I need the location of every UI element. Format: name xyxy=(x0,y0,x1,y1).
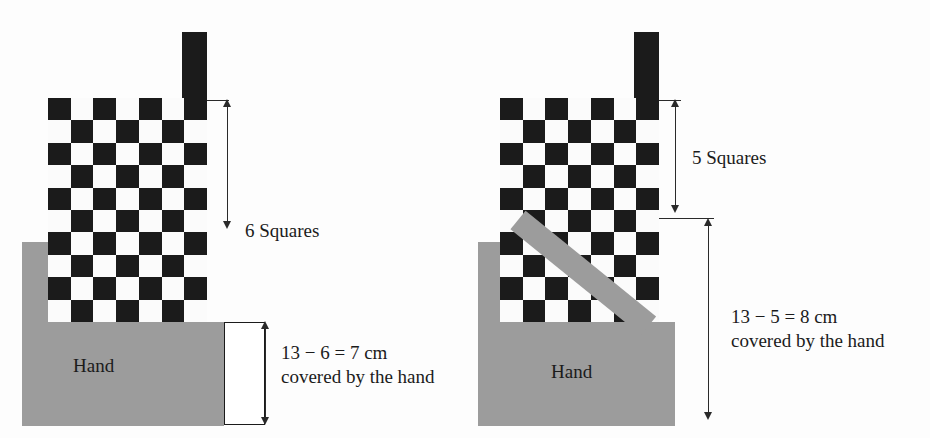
ruler-black-bar xyxy=(182,32,207,102)
board-cell xyxy=(116,232,139,254)
covered-caption-line2: covered by the hand xyxy=(281,365,435,389)
checkerboard xyxy=(48,98,207,322)
board-cell xyxy=(545,165,568,187)
board-cell xyxy=(48,98,71,120)
board-cell xyxy=(139,277,162,299)
board-cell xyxy=(162,188,185,210)
board-cell xyxy=(614,143,637,165)
board-cell xyxy=(568,98,591,120)
hand-body xyxy=(22,322,224,426)
board-cell xyxy=(162,120,185,142)
board-cell xyxy=(184,120,207,142)
board-cell xyxy=(614,165,637,187)
hand-label: Hand xyxy=(73,354,114,378)
board-cell xyxy=(48,143,71,165)
board-cell xyxy=(184,277,207,299)
board-cell xyxy=(139,98,162,120)
board-cell xyxy=(116,188,139,210)
board-cell xyxy=(636,232,659,254)
board-cell xyxy=(591,188,614,210)
board-cell xyxy=(162,255,185,277)
board-cell xyxy=(48,255,71,277)
board-cell xyxy=(48,188,71,210)
board-cell xyxy=(523,255,546,277)
board-cell xyxy=(71,188,94,210)
board-cell xyxy=(139,188,162,210)
board-cell xyxy=(591,120,614,142)
board-cell xyxy=(71,165,94,187)
board-cell xyxy=(636,165,659,187)
board-cell xyxy=(523,165,546,187)
board-cell xyxy=(500,255,523,277)
board-cell xyxy=(545,300,568,322)
board-cell xyxy=(93,143,116,165)
covered-caption: 13 − 6 = 7 cm covered by the hand xyxy=(281,341,435,389)
covered-caption-line1: 13 − 5 = 8 cm xyxy=(731,306,837,327)
board-cell xyxy=(545,188,568,210)
board-cell xyxy=(568,188,591,210)
board-cell xyxy=(162,143,185,165)
board-cell xyxy=(116,300,139,322)
board-cell xyxy=(139,210,162,232)
board-cell xyxy=(71,120,94,142)
board-cell xyxy=(162,232,185,254)
board-cell xyxy=(636,143,659,165)
board-cell xyxy=(116,255,139,277)
board-cell xyxy=(184,98,207,120)
left-diagram: Hand 6 Squares 13 − 6 = 7 cm covered by … xyxy=(0,0,465,438)
board-cell xyxy=(71,232,94,254)
board-cell xyxy=(48,165,71,187)
board-cell xyxy=(545,98,568,120)
board-cell xyxy=(614,255,637,277)
dimension-line-covered xyxy=(265,327,266,419)
board-cell xyxy=(139,165,162,187)
board-cell xyxy=(71,277,94,299)
board-cell xyxy=(139,300,162,322)
board-cell xyxy=(500,165,523,187)
arrowhead-down-squares xyxy=(223,221,231,229)
board-cell xyxy=(48,120,71,142)
board-cell xyxy=(614,120,637,142)
covered-caption-line2: covered by the hand xyxy=(731,329,885,353)
dimension-line-covered xyxy=(708,224,709,415)
board-cell xyxy=(500,143,523,165)
arrowhead-down-squares xyxy=(671,205,679,213)
board-cell xyxy=(568,210,591,232)
board-cell xyxy=(523,300,546,322)
board-cell xyxy=(116,143,139,165)
board-cell xyxy=(523,143,546,165)
board-cell xyxy=(116,165,139,187)
board-cell xyxy=(614,188,637,210)
board-cell xyxy=(116,277,139,299)
checkerboard xyxy=(500,98,659,322)
board-cell xyxy=(184,165,207,187)
board-cell xyxy=(162,210,185,232)
board-cell xyxy=(591,232,614,254)
board-cell xyxy=(500,188,523,210)
board-cell xyxy=(93,277,116,299)
covered-dimension-box xyxy=(224,322,265,425)
board-cell xyxy=(71,98,94,120)
board-cell xyxy=(48,277,71,299)
board-cell xyxy=(545,277,568,299)
board-cell xyxy=(636,188,659,210)
board-cell xyxy=(636,255,659,277)
board-cell xyxy=(71,300,94,322)
board-cell xyxy=(184,210,207,232)
covered-caption: 13 − 5 = 8 cm covered by the hand xyxy=(731,305,885,353)
board-cell xyxy=(591,143,614,165)
arrowhead-up-squares xyxy=(671,99,679,107)
board-cell xyxy=(523,188,546,210)
board-cell xyxy=(500,98,523,120)
arrowhead-down-covered xyxy=(261,417,269,425)
board-cell xyxy=(116,210,139,232)
ruler-black-bar xyxy=(634,32,659,102)
squares-measure-label: 6 Squares xyxy=(245,219,319,243)
board-cell xyxy=(93,232,116,254)
board-cell xyxy=(500,300,523,322)
board-cell xyxy=(184,143,207,165)
board-cell xyxy=(93,210,116,232)
board-cell xyxy=(93,188,116,210)
board-cell xyxy=(636,120,659,142)
board-cell xyxy=(139,232,162,254)
